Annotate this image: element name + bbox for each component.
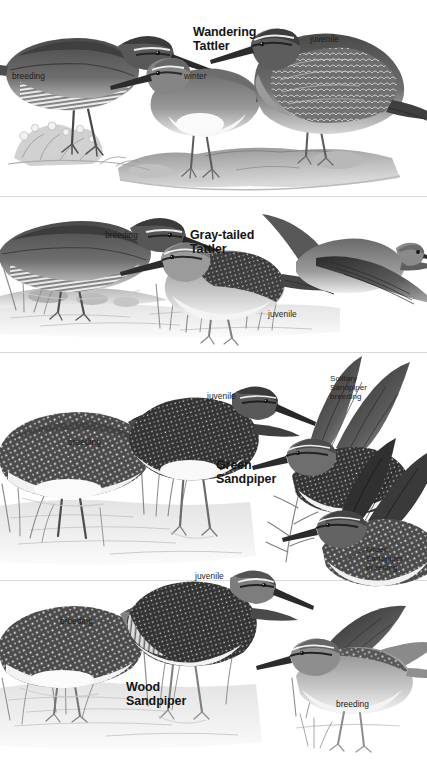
species-title-green-sandpiper: Green Sandpiper <box>216 459 276 486</box>
illustration-wood-sandpiper <box>0 560 427 761</box>
label-gray-tailed-tattler-breeding: breeding <box>105 231 138 240</box>
figure-gray-tailed-tattler-flight <box>262 214 427 304</box>
field-guide-plate: Wandering Tattler breeding winter juveni… <box>0 0 427 761</box>
label-green-sandpiper-breeding-right: Green Sandpiper breeding <box>366 545 403 572</box>
habitat-rocks <box>118 148 400 190</box>
label-solitary-sandpiper-breeding: Solitary Sandpiper breeding <box>330 374 367 401</box>
label-wood-sandpiper-juvenile: juvenile <box>195 572 224 581</box>
label-wandering-tattler-juvenile: juvenile <box>310 35 339 44</box>
illustration-gray-tailed-tattler <box>0 200 427 352</box>
label-green-sandpiper-breeding: breeding <box>68 438 101 447</box>
species-title-wandering-tattler: Wandering Tattler <box>193 26 256 53</box>
species-title-wood-sandpiper: Wood Sandpiper <box>126 681 186 708</box>
label-wandering-tattler-winter: winter <box>184 72 207 81</box>
label-wandering-tattler-breeding: breeding <box>12 72 45 81</box>
label-wood-sandpiper-breeding: breeding <box>60 617 93 626</box>
label-wood-sandpiper-breeding-right: breeding <box>336 700 369 709</box>
label-green-sandpiper-juvenile: juvenile <box>207 392 236 401</box>
figure-wood-sandpiper-wings-raised <box>256 606 427 752</box>
habitat-water <box>0 302 340 338</box>
species-title-gray-tailed-tattler: Gray-tailed Tattler <box>190 229 254 256</box>
section-divider-2 <box>0 352 427 353</box>
label-gray-tailed-tattler-juvenile: juvenile <box>268 310 297 319</box>
